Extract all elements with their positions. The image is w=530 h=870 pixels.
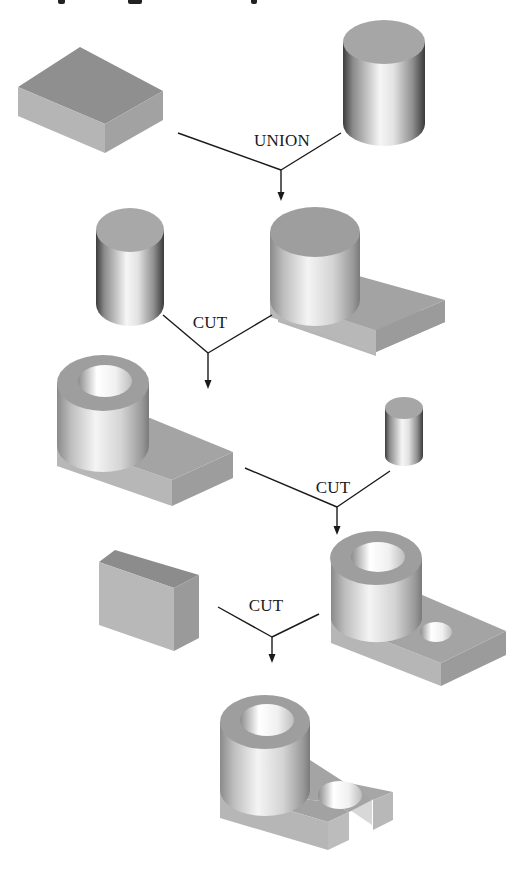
operation-label-cut-2: CUT — [316, 478, 351, 498]
bored-part — [57, 355, 233, 506]
input-small-cylinder — [385, 397, 423, 466]
operation-label-cut-3: CUT — [249, 596, 284, 616]
union-result-part — [270, 207, 445, 356]
arrow-down-icon — [269, 654, 276, 663]
operation-label-union: UNION — [254, 131, 310, 151]
input-cylinder-2 — [96, 208, 164, 326]
input-cylinder-1 — [343, 20, 425, 146]
clipped-heading — [0, 0, 530, 6]
part-with-hole — [330, 531, 506, 686]
input-rectangular-block — [18, 47, 163, 153]
final-slotted-bracket — [220, 695, 393, 850]
input-thin-block — [99, 550, 199, 651]
arrow-down-icon — [334, 526, 341, 535]
operation-label-cut-1: CUT — [193, 313, 228, 333]
csg-diagram: UNION CUT CUT CUT — [0, 0, 530, 870]
arrow-down-icon — [278, 192, 285, 201]
arrow-down-icon — [205, 380, 212, 389]
